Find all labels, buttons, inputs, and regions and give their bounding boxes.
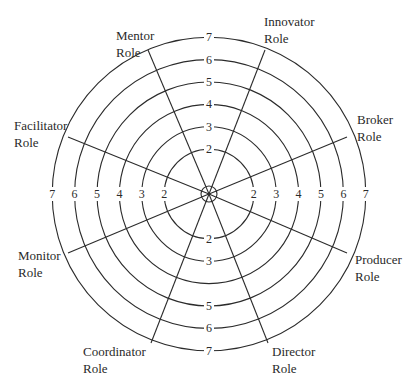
role-label-suffix: Role: [14, 134, 67, 151]
svg-text:2: 2: [206, 232, 212, 246]
scale-label-top-2: 2: [204, 142, 214, 156]
spoke-monitor: [68, 194, 209, 253]
svg-text:4: 4: [296, 187, 302, 201]
role-label-suffix: Role: [18, 264, 61, 281]
role-label-coordinator: CoordinatorRole: [83, 343, 146, 377]
role-label-facilitator: FacilitatorRole: [14, 117, 67, 151]
role-label-name: Facilitator: [14, 117, 67, 134]
scale-label-bottom-3: 3: [204, 254, 214, 268]
svg-text:3: 3: [206, 120, 212, 134]
scale-label-left-4: 4: [114, 187, 124, 201]
role-label-suffix: Role: [272, 360, 315, 377]
role-label-name: Producer: [355, 251, 402, 268]
svg-text:5: 5: [206, 299, 212, 313]
spoke-producer: [209, 194, 347, 253]
role-label-name: Coordinator: [83, 343, 146, 360]
spoke-broker: [209, 137, 347, 194]
svg-text:5: 5: [318, 187, 324, 201]
svg-text:3: 3: [139, 187, 145, 201]
scale-label-right-4: 4: [294, 187, 304, 201]
svg-text:2: 2: [206, 142, 212, 156]
role-label-suffix: Role: [264, 30, 315, 47]
scale-label-right-7: 7: [361, 187, 371, 201]
svg-text:7: 7: [206, 344, 212, 358]
scale-label-bottom-6: 6: [204, 321, 214, 335]
role-label-director: DirectorRole: [272, 343, 315, 377]
scale-label-right-6: 6: [338, 187, 348, 201]
role-wheel-diagram: 23456723567234567234567: [0, 0, 418, 379]
role-label-mentor: MentorRole: [116, 27, 154, 61]
svg-text:3: 3: [273, 187, 279, 201]
svg-text:2: 2: [251, 187, 257, 201]
svg-text:7: 7: [49, 187, 55, 201]
role-label-name: Broker: [357, 111, 393, 128]
role-label-suffix: Role: [357, 128, 393, 145]
svg-text:4: 4: [206, 97, 212, 111]
svg-text:5: 5: [206, 75, 212, 89]
scale-label-top-3: 3: [204, 120, 214, 134]
scale-label-top-6: 6: [204, 53, 214, 67]
role-label-name: Mentor: [116, 27, 154, 44]
role-label-innovator: InnovatorRole: [264, 13, 315, 47]
svg-text:2: 2: [161, 187, 167, 201]
scale-label-left-5: 5: [92, 187, 102, 201]
role-label-suffix: Role: [116, 44, 154, 61]
svg-text:3: 3: [206, 254, 212, 268]
svg-text:6: 6: [206, 321, 212, 335]
svg-text:4: 4: [116, 187, 122, 201]
spoke-mentor: [148, 50, 209, 194]
scale-label-left-2: 2: [159, 187, 169, 201]
role-label-suffix: Role: [355, 268, 402, 285]
scale-label-bottom-5: 5: [204, 299, 214, 313]
scale-label-bottom-7: 7: [204, 344, 214, 358]
scale-label-top-7: 7: [204, 30, 214, 44]
role-label-name: Innovator: [264, 13, 315, 30]
role-label-broker: BrokerRole: [357, 111, 393, 145]
svg-text:5: 5: [94, 187, 100, 201]
role-label-name: Monitor: [18, 247, 61, 264]
spoke-facilitator: [68, 137, 209, 194]
scale-label-right-5: 5: [316, 187, 326, 201]
svg-text:7: 7: [363, 187, 369, 201]
svg-text:6: 6: [340, 187, 346, 201]
svg-text:7: 7: [206, 30, 212, 44]
svg-text:6: 6: [72, 187, 78, 201]
scale-label-bottom-2: 2: [204, 232, 214, 246]
scale-label-right-2: 2: [249, 187, 259, 201]
role-label-suffix: Role: [83, 360, 146, 377]
scale-label-left-7: 7: [47, 187, 57, 201]
role-label-producer: ProducerRole: [355, 251, 402, 285]
scale-label-top-4: 4: [204, 97, 214, 111]
scale-label-top-5: 5: [204, 75, 214, 89]
spoke-innovator: [209, 50, 265, 194]
role-label-monitor: MonitorRole: [18, 247, 61, 281]
scale-label-left-3: 3: [137, 187, 147, 201]
role-label-name: Director: [272, 343, 315, 360]
svg-text:6: 6: [206, 53, 212, 67]
scale-label-left-6: 6: [70, 187, 80, 201]
scale-label-right-3: 3: [271, 187, 281, 201]
